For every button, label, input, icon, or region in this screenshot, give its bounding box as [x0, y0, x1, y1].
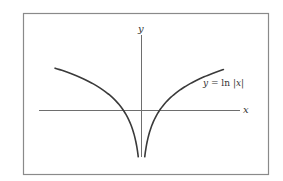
- ln-abs-x-graph: y x y = ln |x|: [0, 0, 283, 181]
- curve-left-branch: [55, 68, 138, 157]
- curve-equation-label: y = ln |x|: [202, 78, 244, 89]
- equation-mid: = ln |: [208, 78, 236, 89]
- equation-end: |: [241, 78, 244, 89]
- y-axis-label: y: [137, 23, 144, 34]
- x-axis-label: x: [243, 104, 249, 115]
